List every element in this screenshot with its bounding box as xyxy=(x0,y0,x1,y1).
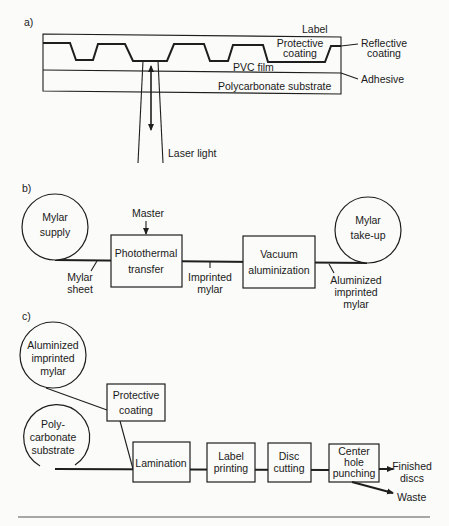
polycarbonate-label-1: Poly- xyxy=(41,418,65,430)
mylar-supply-label-1: Mylar xyxy=(42,211,68,223)
aluminized-mylar-label-1: Aluminized xyxy=(330,274,382,286)
aluminized-mylar-label-2: imprinted xyxy=(334,286,377,298)
c-aluminized-label-1: Aluminized xyxy=(27,339,79,351)
protective-coating-label-2: coating xyxy=(283,47,317,59)
reflective-coating-leader xyxy=(341,44,358,46)
adhesive-leader xyxy=(341,73,358,79)
panel-c-disc-assembly: c) Aluminized imprinted mylar Protective… xyxy=(20,310,432,503)
laser-beam-left-edge xyxy=(138,61,143,163)
waste-label: Waste xyxy=(397,491,427,503)
finished-discs-label-2: discs xyxy=(400,472,424,484)
panel-c-tag: c) xyxy=(22,310,31,322)
c-protective-coating-label-1: Protective xyxy=(113,389,160,401)
waste-arrow xyxy=(352,482,393,493)
label-layer-label: Label xyxy=(302,23,328,35)
panel-b-mylar-processing: b) Mylar supply Master Photothermal tran… xyxy=(22,182,401,310)
master-label: Master xyxy=(132,207,165,219)
aluminized-mylar-label-3: mylar xyxy=(343,298,369,310)
photothermal-transfer-label-1: Photothermal xyxy=(115,247,177,259)
cd-manufacturing-diagram: a) Label Protective coating Reflective c… xyxy=(0,0,449,526)
panel-a-disc-cross-section: a) Label Protective coating Reflective c… xyxy=(24,16,407,163)
disc-cutting-label-2: cutting xyxy=(274,462,305,474)
panel-a-tag: a) xyxy=(24,16,33,28)
c-aluminized-label-2: imprinted xyxy=(31,352,74,364)
vacuum-aluminization-label-1: Vacuum xyxy=(260,248,298,260)
photothermal-transfer-box xyxy=(111,235,182,287)
reflective-coating-label-2: coating xyxy=(367,47,401,59)
vacuum-aluminization-box xyxy=(243,236,315,288)
laser-beam-right-edge xyxy=(158,61,163,163)
disc-cutting-label-1: Disc xyxy=(279,450,299,462)
mylar-supply-label-2: supply xyxy=(40,226,71,238)
imprinted-mylar-label-1: Imprinted xyxy=(188,271,232,283)
mylar-sheet-label-1: Mylar xyxy=(67,271,93,283)
mylar-takeup-label-2: take-up xyxy=(350,229,385,241)
polycarbonate-substrate-label: Polycarbonate substrate xyxy=(218,80,331,92)
adhesive-label: Adhesive xyxy=(361,73,404,85)
c-protective-coating-label-2: coating xyxy=(119,404,153,416)
mylar-web-line xyxy=(55,260,367,263)
pvc-film-label: PVC film xyxy=(233,61,274,73)
imprinted-mylar-label-2: mylar xyxy=(197,283,223,295)
vacuum-aluminization-label-2: aluminization xyxy=(248,264,309,276)
mylar-sheet-label-2: sheet xyxy=(67,283,93,295)
laser-light-label: Laser light xyxy=(168,147,217,159)
polycarbonate-label-3: substrate xyxy=(31,444,74,456)
label-printing-label-1: Label xyxy=(218,450,244,462)
aluminized-mylar-leader xyxy=(329,264,334,273)
polycarbonate-label-2: carbonate xyxy=(30,431,77,443)
photothermal-transfer-label-2: transfer xyxy=(128,263,164,275)
panel-b-tag: b) xyxy=(22,182,31,194)
mylar-sheet-leader xyxy=(91,261,97,271)
finished-discs-label-1: Finished xyxy=(392,460,432,472)
adhesive-boundary-line xyxy=(43,70,341,73)
c-aluminized-label-3: mylar xyxy=(40,365,66,377)
label-printing-label-2: printing xyxy=(214,462,249,474)
center-hole-punching-label-3: punching xyxy=(333,467,376,479)
lamination-label: Lamination xyxy=(135,457,187,469)
coating-to-lamination-line xyxy=(120,421,133,469)
mylar-takeup-label-1: Mylar xyxy=(355,214,381,226)
